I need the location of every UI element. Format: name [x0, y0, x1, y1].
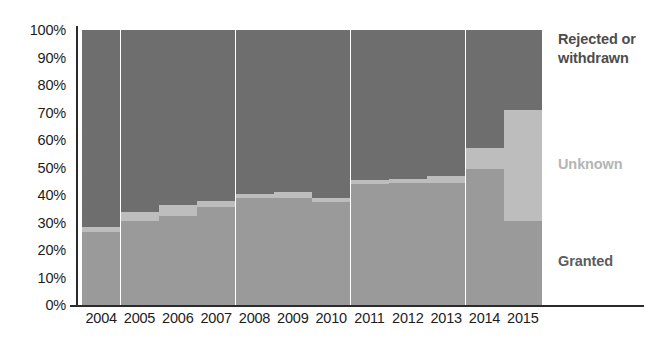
y-tick-label: 10%: [38, 270, 66, 286]
bar-segment: [82, 30, 120, 227]
bar-segment: [197, 207, 235, 305]
y-tick-label: 0%: [45, 297, 66, 313]
y-tick-label: 40%: [38, 187, 66, 203]
chart-legend: Rejected or withdrawnUnknownGranted: [558, 0, 672, 350]
bar-segment: [121, 212, 159, 222]
bar-segment: [427, 30, 465, 176]
bar-2012: [389, 30, 427, 305]
legend-item-unknown: Unknown: [558, 155, 672, 174]
y-tick-label: 100%: [30, 22, 66, 38]
y-tick-label: 60%: [38, 132, 66, 148]
bar-segment: [504, 110, 542, 221]
bar-segment: [121, 221, 159, 305]
bar-2004: [82, 30, 120, 305]
bar-segment: [159, 205, 197, 216]
bar-segment: [351, 30, 389, 180]
y-axis: 0%10%20%30%40%50%60%70%80%90%100%: [0, 0, 74, 350]
bar-segment: [82, 232, 120, 305]
bar-segment: [312, 202, 350, 305]
bar-2006: [159, 30, 197, 305]
bar-segment: [427, 183, 465, 305]
bar-segment: [197, 201, 235, 208]
bar-2010: [312, 30, 350, 305]
bar-segment: [427, 176, 465, 183]
bar-2009: [274, 30, 312, 305]
bar-segment: [351, 184, 389, 305]
y-tick-label: 90%: [38, 50, 66, 66]
stacked-bar-chart: 0%10%20%30%40%50%60%70%80%90%100% 200420…: [0, 0, 672, 350]
bar-2008: [236, 30, 274, 305]
bar-segment: [504, 30, 542, 110]
legend-item-granted: Granted: [558, 252, 672, 271]
bar-2011: [351, 30, 389, 305]
bar-segment: [274, 198, 312, 305]
bar-2005: [121, 30, 159, 305]
bar-segment: [159, 216, 197, 305]
y-tick-label: 80%: [38, 77, 66, 93]
y-tick-label: 70%: [38, 105, 66, 121]
bar-segment: [312, 30, 350, 198]
y-tick-label: 20%: [38, 242, 66, 258]
x-axis: 2004200520062007200820092010201120122013…: [82, 310, 542, 338]
y-tick-label: 50%: [38, 160, 66, 176]
bar-segment: [466, 30, 504, 148]
bar-2014: [466, 30, 504, 305]
bar-2007: [197, 30, 235, 305]
bar-segment: [236, 30, 274, 194]
bar-segment: [389, 30, 427, 179]
y-tick-label: 30%: [38, 215, 66, 231]
legend-item-rejected: Rejected or withdrawn: [558, 30, 658, 67]
plot-area: [82, 30, 542, 305]
bar-segment: [274, 30, 312, 192]
bar-segment: [159, 30, 197, 205]
y-axis-line: [76, 26, 78, 307]
bar-2015: [504, 30, 542, 305]
bar-segment: [236, 198, 274, 305]
bar-segment: [466, 148, 504, 169]
bar-segment: [197, 30, 235, 201]
bar-2013: [427, 30, 465, 305]
bar-segment: [121, 30, 159, 212]
bar-segment: [504, 221, 542, 305]
bar-segment: [389, 183, 427, 305]
bar-segment: [466, 169, 504, 305]
x-tick-label-2015: 2015: [501, 310, 545, 326]
